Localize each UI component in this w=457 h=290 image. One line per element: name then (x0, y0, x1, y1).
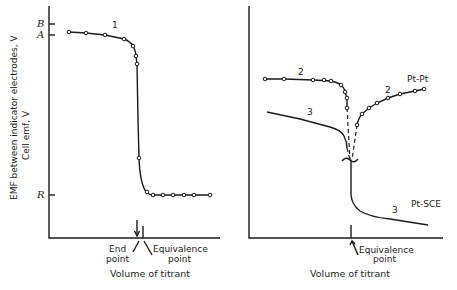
left-panel: B A R 1 End point Equivalence point Volu… (9, 6, 220, 279)
pt-sce-label: Pt-SCE (411, 199, 441, 209)
curve-3-upper (267, 112, 347, 148)
ytick-b-label: B (36, 18, 44, 29)
pt-pt-label: Pt-Pt (407, 74, 429, 84)
equivalence-pointer-left (144, 241, 152, 255)
outer-ylabel: EMF between indicator electrodes, V (9, 35, 19, 200)
equivalence-label-left-1: Equivalence (153, 244, 208, 254)
curve-2-label-left: 2 (298, 67, 304, 77)
curve-2-markers (263, 77, 426, 127)
equivalence-label-left-2: point (168, 254, 191, 264)
ytick-r-label: R (36, 189, 45, 200)
titration-curves-figure: B A R 1 End point Equivalence point Volu… (0, 0, 457, 290)
curve-3-label-upper: 3 (307, 107, 313, 117)
equivalence-label-right-2: point (373, 254, 396, 264)
ytick-a-label: A (36, 29, 44, 40)
right-panel: 2 2 Pt-Pt 3 3 Pt-SCE Equivalence point V… (249, 6, 443, 279)
curve-2-dashed-down (347, 108, 350, 160)
end-point-label-2: point (106, 254, 129, 264)
curve-3-label-lower: 3 (392, 205, 398, 215)
left-ylabel: Cell emf, V (21, 110, 31, 160)
curve-1-label: 1 (112, 20, 118, 30)
curve-2-label-right: 2 (385, 85, 391, 95)
right-xlabel: Volume of titrant (310, 268, 390, 279)
left-xlabel: Volume of titrant (110, 268, 190, 279)
left-axes (49, 6, 220, 238)
curve-2-dashed-up (352, 125, 357, 160)
end-point-pointer (133, 241, 139, 252)
curve-1 (69, 32, 210, 195)
end-point-label-1: End (109, 244, 126, 254)
curve-2-before (265, 79, 347, 108)
curve-3-lower (351, 160, 428, 225)
